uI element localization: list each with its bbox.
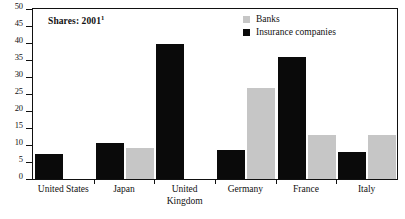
y-axis-tick-mark bbox=[26, 162, 32, 163]
bar-group bbox=[336, 9, 397, 179]
legend-swatch-insurance-companies-icon bbox=[243, 29, 250, 36]
y-axis-tick-label: 50 bbox=[15, 2, 23, 11]
bars-layer bbox=[33, 9, 397, 179]
bar-banks bbox=[368, 135, 396, 179]
x-axis-category-label: United Kingdom bbox=[154, 184, 215, 207]
bar-insurance-companies bbox=[156, 44, 184, 179]
y-axis-tick-mark bbox=[26, 43, 32, 44]
y-axis-tick-mark bbox=[26, 9, 32, 10]
legend-label-banks: Banks bbox=[256, 15, 280, 25]
y-axis-tick-label: 25 bbox=[15, 87, 23, 96]
bar-insurance-companies bbox=[338, 152, 366, 179]
y-axis-tick-label: 15 bbox=[15, 121, 23, 130]
x-axis-category-label: Japan bbox=[94, 184, 155, 196]
bar-group bbox=[94, 9, 155, 179]
y-axis-tick-label: 5 bbox=[19, 155, 23, 164]
bar-banks bbox=[308, 135, 336, 179]
x-axis-category-label: Germany bbox=[215, 184, 276, 196]
y-axis-tick-label: 10 bbox=[15, 138, 23, 147]
legend-label-insurance-companies: Insurance companies bbox=[256, 28, 336, 38]
y-axis-tick-label: 0 bbox=[19, 172, 23, 181]
x-axis-category-label: Italy bbox=[336, 184, 397, 196]
bar-group bbox=[154, 9, 215, 179]
chart-title-text: Shares: 2001 bbox=[48, 16, 101, 26]
bar-insurance-companies bbox=[217, 150, 245, 179]
y-axis-tick-mark bbox=[26, 26, 32, 27]
y-axis-tick-label: 20 bbox=[15, 104, 23, 113]
chart-title-footnote-marker: 1 bbox=[101, 14, 104, 21]
bar-insurance-companies bbox=[96, 143, 124, 179]
bar-banks bbox=[126, 148, 154, 179]
y-axis-tick-label: 30 bbox=[15, 70, 23, 79]
bar-group bbox=[33, 9, 94, 179]
legend-item-banks: Banks bbox=[243, 14, 336, 25]
y-axis-tick-label: 35 bbox=[15, 53, 23, 62]
y-axis-tick-mark bbox=[26, 145, 32, 146]
bar-banks bbox=[247, 88, 275, 179]
y-axis-tick-label: 45 bbox=[15, 19, 23, 28]
bar-insurance-companies bbox=[278, 57, 306, 179]
x-axis-category-label: France bbox=[276, 184, 337, 196]
legend-swatch-banks-icon bbox=[243, 16, 250, 23]
chart-title: Shares: 20011 bbox=[48, 14, 104, 26]
legend-item-insurance-companies: Insurance companies bbox=[243, 27, 336, 38]
chart-legend: Banks Insurance companies bbox=[243, 14, 336, 40]
bar-insurance-companies bbox=[35, 154, 63, 180]
y-axis-tick-label: 40 bbox=[15, 36, 23, 45]
y-axis-tick-mark bbox=[26, 94, 32, 95]
bar-chart: 50454035302520151050 United StatesJapanU… bbox=[0, 0, 405, 219]
y-axis: 50454035302520151050 bbox=[0, 8, 32, 180]
x-axis-labels: United StatesJapanUnited KingdomGermanyF… bbox=[33, 184, 397, 218]
y-axis-tick-mark bbox=[26, 179, 32, 180]
y-axis-tick-mark bbox=[26, 128, 32, 129]
y-axis-tick-mark bbox=[26, 111, 32, 112]
y-axis-tick-mark bbox=[26, 77, 32, 78]
y-axis-tick-mark bbox=[26, 60, 32, 61]
x-axis-category-label: United States bbox=[33, 184, 94, 196]
